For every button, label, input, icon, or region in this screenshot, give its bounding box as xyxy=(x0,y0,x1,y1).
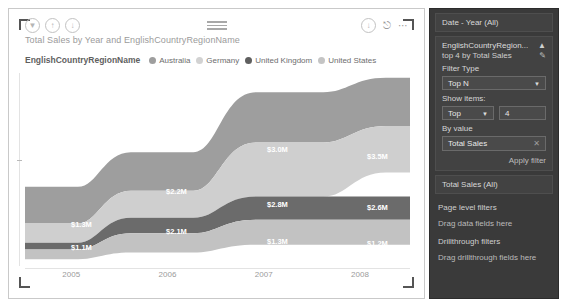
focus-mode-icon[interactable]: ⎋ xyxy=(383,21,391,31)
visual-title: Total Sales by Year and EnglishCountryRe… xyxy=(25,35,240,45)
y-axis-line xyxy=(19,73,20,266)
filter-summary: top 4 by Total Sales xyxy=(442,51,512,60)
stream-graph-visual[interactable]: ▼ ↑ ↓ ↓ ⎋ ⋯ Total Sales by Year and Engl… xyxy=(15,15,418,292)
legend-item-united-states[interactable]: United States xyxy=(318,56,376,65)
apply-filter-button[interactable]: Apply filter xyxy=(442,156,546,165)
legend-label-united-states: United States xyxy=(328,56,376,65)
data-label-2008-united-kingdom: $1.2M xyxy=(367,239,388,248)
filters-pane: Date - Year (All) EnglishCountryRegion..… xyxy=(429,8,559,299)
power-bi-report-screen: ▼ ↑ ↓ ↓ ⎋ ⋯ Total Sales by Year and Engl… xyxy=(0,0,567,307)
drill-down-icon[interactable]: ↓ xyxy=(65,18,80,33)
filter-card-date-year[interactable]: Date - Year (All) xyxy=(435,13,553,32)
filter-card-region-header[interactable]: EnglishCountryRegion... ▲ xyxy=(442,41,546,50)
show-items-mode-select[interactable]: Top ▼ xyxy=(442,106,494,120)
filter-card-date-year-title: Date - Year (All) xyxy=(442,18,546,27)
filter-type-value: Top N xyxy=(448,79,469,88)
drillthrough-filters-heading: Drillthrough filters xyxy=(438,237,550,246)
drill-mode-icon[interactable] xyxy=(207,21,227,29)
legend-label-germany: Germany xyxy=(206,56,239,65)
legend-item-australia[interactable]: Australia xyxy=(149,56,190,65)
page-level-filters-heading: Page level filters xyxy=(438,203,550,212)
data-label-2006-australia: $2.2M xyxy=(166,187,187,196)
data-label-2006-united-kingdom: $0.6M xyxy=(166,252,187,261)
report-canvas: ▼ ↑ ↓ ↓ ⎋ ⋯ Total Sales by Year and Engl… xyxy=(8,8,425,299)
show-items-mode-value: Top xyxy=(448,109,461,118)
x-axis-tick-2007: 2007 xyxy=(255,270,273,279)
show-items-label: Show items: xyxy=(442,94,546,103)
filter-field-name: EnglishCountryRegion... xyxy=(442,41,528,50)
legend-label-australia: Australia xyxy=(159,56,190,65)
filter-icon[interactable]: ▼ xyxy=(25,18,40,33)
by-value-field-name: Total Sales xyxy=(448,139,487,148)
drill-up-icon[interactable]: ↑ xyxy=(45,18,60,33)
stream-graph-svg xyxy=(25,73,410,266)
legend-item-united-kingdom[interactable]: United Kingdom xyxy=(245,56,312,65)
legend-swatch-united-kingdom xyxy=(245,57,252,64)
stream-graph-plot[interactable] xyxy=(25,73,410,266)
page-level-filters-dropzone[interactable]: Drag data fields here xyxy=(438,219,550,228)
by-value-label: By value xyxy=(442,124,546,133)
filter-card-region[interactable]: EnglishCountryRegion... ▲ top 4 by Total… xyxy=(435,36,553,171)
filter-card-total-sales-title: Total Sales (All) xyxy=(442,180,546,189)
visual-header: ▼ ↑ ↓ ↓ ⎋ ⋯ xyxy=(15,15,418,35)
filter-type-label: Filter Type xyxy=(442,64,546,73)
show-items-row: Top ▼ 4 xyxy=(442,106,546,120)
legend-swatch-australia xyxy=(149,57,156,64)
chevron-down-icon[interactable]: ▼ xyxy=(482,111,488,117)
x-axis-tick-2005: 2005 xyxy=(62,270,80,279)
filter-card-region-summary: top 4 by Total Sales ✎ xyxy=(442,50,546,60)
drillthrough-filters-dropzone[interactable]: Drag drillthrough fields here xyxy=(438,253,550,262)
chevron-down-icon[interactable]: ▼ xyxy=(534,81,540,87)
chart-legend: EnglishCountryRegionName Australia Germa… xyxy=(25,55,376,65)
filter-type-select[interactable]: Top N ▼ xyxy=(442,76,546,90)
remove-field-icon[interactable]: ✕ xyxy=(533,139,540,148)
filter-card-total-sales[interactable]: Total Sales (All) xyxy=(435,175,553,194)
data-label-2005-germany: $1.1M xyxy=(71,243,92,252)
data-label-2005-australia: $1.3M xyxy=(71,220,92,229)
legend-item-germany[interactable]: Germany xyxy=(196,56,239,65)
data-label-2008-germany: $2.6M xyxy=(367,203,388,212)
more-options-icon[interactable]: ⋯ xyxy=(398,21,408,31)
x-axis-tick-2006: 2006 xyxy=(159,270,177,279)
chevron-up-icon[interactable]: ▲ xyxy=(538,41,546,50)
download-icon[interactable]: ↓ xyxy=(361,18,376,33)
edit-pencil-icon[interactable]: ✎ xyxy=(539,51,546,60)
x-axis: 2005 2006 2007 2008 xyxy=(25,268,410,282)
legend-swatch-germany xyxy=(196,57,203,64)
x-axis-tick-2008: 2008 xyxy=(351,270,369,279)
legend-title: EnglishCountryRegionName xyxy=(25,55,140,65)
data-label-2007-australia: $3.0M xyxy=(267,145,288,154)
data-label-2008-australia: $3.5M xyxy=(367,152,388,161)
visual-header-left-icons: ▼ ↑ ↓ xyxy=(25,18,80,33)
data-label-2007-germany: $2.8M xyxy=(267,200,288,209)
legend-label-united-kingdom: United Kingdom xyxy=(255,56,312,65)
legend-swatch-united-states xyxy=(318,57,325,64)
visual-header-right-icons: ↓ ⎋ ⋯ xyxy=(361,18,408,33)
y-axis-tick xyxy=(17,160,22,161)
data-label-2006-germany: $2.1M xyxy=(166,227,187,236)
data-label-2007-united-kingdom: $1.3M xyxy=(267,237,288,246)
show-items-count-input[interactable]: 4 xyxy=(499,106,546,120)
by-value-field-chip[interactable]: Total Sales ✕ xyxy=(442,136,546,151)
x-axis-line xyxy=(25,268,410,269)
